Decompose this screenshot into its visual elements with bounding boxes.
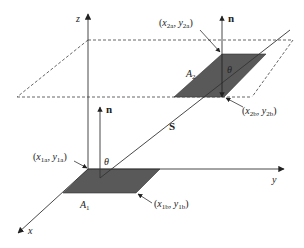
theta-a2: θ [227, 64, 232, 75]
surface-a1-label: A1 [79, 199, 90, 212]
y-axis-label: y [271, 174, 277, 185]
surface-a1 [63, 169, 160, 193]
surface-a2-label: A2 [185, 68, 196, 81]
theta-a1: θ [104, 156, 109, 167]
pointer-p1a [74, 161, 87, 168]
corner-label-p1a: (x1a, y1a) [33, 151, 67, 164]
corner-label-p2b: (x2b, y2b) [242, 105, 277, 118]
pointer-p2a [200, 30, 220, 52]
x-axis-label: x [27, 225, 33, 236]
separation-label: S [169, 120, 175, 132]
normal-label-a1: n [106, 103, 112, 115]
normal-label-a2: n [228, 12, 234, 24]
pointer-p1b [138, 194, 152, 203]
corner-label-p1b: (x1b, y1b) [154, 198, 189, 211]
z-axis-label: z [75, 13, 80, 24]
corner-label-p2a: (x2a, y2a) [159, 17, 193, 30]
pointer-p2b [226, 98, 243, 107]
x-axis [18, 169, 88, 233]
view-factor-diagram: z y x n n S θ θ A1 A2 (x2a, y2a) (x2b, y… [0, 0, 304, 248]
separation-line-s [100, 30, 290, 178]
